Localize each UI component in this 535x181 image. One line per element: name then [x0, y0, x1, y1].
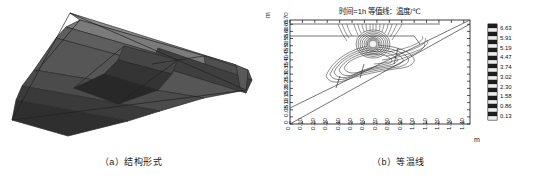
colorbar-label: 2.30 [500, 84, 512, 90]
figure-container: （a）结构形式 时间=1h 等值线：温度/℃ [0, 0, 535, 181]
caption-panel-b: （b）等温线 [262, 155, 535, 168]
colorbar-band [488, 116, 497, 120]
y-axis-unit-label: m [264, 12, 271, 18]
colorbar-band [488, 108, 497, 112]
colorbar-label: 6.63 [500, 25, 512, 31]
x-tick-label: 1.00 [408, 117, 415, 130]
x-tick-label: 0.10 [296, 117, 303, 130]
colorbar-label: 1.58 [500, 93, 512, 99]
x-tick-label: 0.60 [358, 117, 365, 130]
x-tick-label: 0.30 [321, 117, 328, 130]
x-tick-label: 1.30 [445, 117, 452, 130]
colorbar-band [488, 104, 497, 108]
x-axis-tick-labels: 00.100.200.300.400.500.600.700.800.901.0… [284, 117, 465, 130]
chart-title: 时间=1h 等值线：温度/℃ [339, 6, 420, 16]
colorbar-label: 5.91 [500, 35, 512, 41]
colorbar-band [488, 72, 497, 76]
colorbar-band [488, 44, 497, 48]
colorbar-band [488, 24, 497, 28]
colorbar-band [488, 60, 497, 64]
colorbar-band [488, 40, 497, 44]
plot-frame [290, 20, 470, 124]
x-tick-label: 0.80 [383, 117, 390, 130]
wedge-body [12, 13, 252, 136]
colorbar-band [488, 56, 497, 60]
colorbar-band [488, 32, 497, 36]
structure-3d-svg [8, 8, 256, 148]
colorbar-tick-labels: 6.635.915.194.473.743.022.301.580.860.13 [500, 25, 512, 119]
colorbar-band [488, 48, 497, 52]
contour-chart-svg: 时间=1h 等值线：温度/℃ [262, 2, 535, 152]
colorbar-label: 3.74 [500, 64, 512, 70]
x-tick-label: 0.20 [309, 117, 316, 130]
colorbar-band [488, 92, 497, 96]
colorbar-band [488, 68, 497, 72]
x-tick-label: 1.20 [433, 117, 440, 130]
colorbar-bands [488, 24, 497, 120]
colorbar-band [488, 100, 497, 104]
colorbar-label: 5.19 [500, 45, 512, 51]
x-tick-label: 0 [284, 126, 291, 130]
y-tick-label: 0 [282, 120, 289, 124]
colorbar-band [488, 112, 497, 116]
x-tick-label: 1.40 [458, 117, 465, 130]
colorbar-label: 3.02 [500, 74, 512, 80]
colorbar-band [488, 64, 497, 68]
colorbar-band [488, 52, 497, 56]
y-axis-tick-labels: 00.050.100.150.200.250.300.350.400.450.5… [282, 12, 289, 124]
colorbar-band [488, 88, 497, 92]
x-tick-label: 0.70 [371, 117, 378, 130]
colorbar-band [488, 80, 497, 84]
x-tick-label: 0.50 [346, 117, 353, 130]
panel-structural-form: （a）结构形式 [0, 0, 262, 181]
x-tick-label: 1.10 [421, 117, 428, 130]
panel-isotherm: 时间=1h 等值线：温度/℃ [262, 0, 535, 181]
x-tick-label: 0.40 [334, 117, 341, 130]
colorbar-band [488, 36, 497, 40]
colorbar-band [488, 76, 497, 80]
x-axis-unit-label: m [474, 136, 480, 143]
colorbar-band [488, 84, 497, 88]
caption-panel-a: （a）结构形式 [0, 155, 262, 168]
y-tick-label: 0.70 [282, 12, 289, 25]
colorbar-band [488, 28, 497, 32]
colorbar-label: 0.13 [500, 113, 512, 119]
x-tick-label: 0.90 [396, 117, 403, 130]
colorbar: 6.635.915.194.473.743.022.301.580.860.13 [488, 24, 512, 120]
colorbar-label: 0.86 [500, 103, 512, 109]
colorbar-band [488, 96, 497, 100]
colorbar-label: 4.47 [500, 54, 512, 60]
